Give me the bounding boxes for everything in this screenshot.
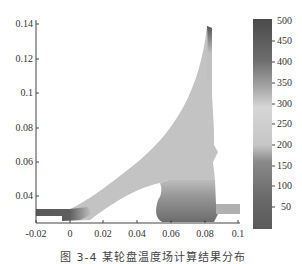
y-tick-label: 0.08: [3, 123, 33, 133]
colorbar-label: 100: [277, 181, 292, 191]
y-tick-label: 0.06: [3, 157, 33, 167]
flange-region: [216, 204, 240, 214]
x-tick-label: 0.04: [122, 229, 152, 239]
y-tick-label: 0.04: [3, 191, 33, 201]
colorbar-ticks: [272, 41, 275, 207]
colorbar-label: 500: [277, 16, 292, 26]
figure-caption: 图 3-4 某轮盘温度场计算结果分布: [60, 248, 246, 264]
colorbar-label: 300: [277, 99, 292, 109]
x-tick-label: -0.02: [21, 229, 51, 239]
colorbar-label: 200: [277, 140, 292, 150]
y-tick-label: 0.14: [3, 19, 33, 29]
colorbar-label: 400: [277, 57, 292, 67]
x-tick-label: 0.1: [223, 229, 253, 239]
y-tick-label: 0.12: [3, 54, 33, 64]
x-tick-label: 0.08: [190, 229, 220, 239]
colorbar-label: 150: [277, 161, 292, 171]
colorbar-label: 50: [281, 202, 291, 212]
colorbar-label: 350: [277, 78, 292, 88]
x-tick-label: 0.06: [156, 229, 186, 239]
colorbar: [253, 19, 272, 229]
colorbar-label: 450: [277, 36, 292, 46]
x-tick-label: 0.02: [88, 229, 118, 239]
y-tick-label: 0.1: [3, 88, 33, 98]
rim-region: [156, 180, 240, 222]
colorbar-label: 250: [277, 119, 292, 129]
x-tick-label: 0: [55, 229, 85, 239]
